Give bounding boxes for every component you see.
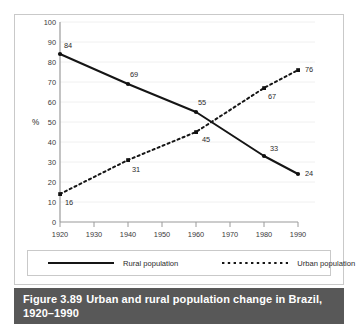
y-tick-50: 50 (48, 118, 56, 127)
x-axis-tick-labels: 1920 1930 1940 1950 1960 1970 1980 1990 (52, 230, 306, 239)
series-point-labels-urban: 16 31 45 67 76 (65, 65, 313, 207)
legend-entry-rural: Rural population (48, 258, 178, 268)
point-label-urban-1990: 76 (305, 65, 313, 74)
x-tick-1990: 1990 (290, 230, 306, 239)
y-tick-80: 80 (48, 58, 56, 67)
figure-caption-number: Figure 3.89 (23, 293, 82, 305)
y-tick-60: 60 (48, 98, 56, 107)
y-axis-tick-labels: 100 90 80 70 60 50 40 30 20 10 0 (44, 18, 56, 227)
x-tick-1960: 1960 (188, 230, 204, 239)
x-tick-1980: 1980 (256, 230, 272, 239)
point-label-urban-1980: 67 (268, 92, 276, 101)
chart-legend: Rural population Urban population (27, 250, 331, 276)
x-tick-1970: 1970 (222, 230, 238, 239)
point-label-rural-1980: 33 (270, 144, 278, 153)
y-tick-20: 20 (48, 178, 56, 187)
chart-panel: 100 90 80 70 60 50 40 30 20 10 0 % (14, 14, 344, 285)
point-label-rural-1920: 84 (64, 41, 72, 50)
y-axis-title: % (32, 118, 39, 127)
legend-label-rural: Rural population (123, 259, 178, 268)
x-tick-1950: 1950 (154, 230, 170, 239)
line-chart: 100 90 80 70 60 50 40 30 20 10 0 % (15, 15, 343, 284)
legend-dashed-line-icon (222, 258, 288, 268)
figure-container: 100 90 80 70 60 50 40 30 20 10 0 % (0, 0, 358, 326)
point-label-rural-1960: 55 (198, 98, 206, 107)
y-tick-100: 100 (44, 18, 56, 27)
y-tick-30: 30 (48, 158, 56, 167)
legend-entry-urban: Urban population (222, 258, 355, 268)
x-axis-tick-marks (60, 222, 298, 227)
point-label-urban-1960: 45 (202, 135, 210, 144)
y-tick-70: 70 (48, 78, 56, 87)
point-label-rural-1990: 24 (305, 169, 313, 178)
figure-caption-text: Figure 3.89Urban and rural population ch… (23, 292, 344, 320)
point-label-urban-1940: 31 (132, 165, 140, 174)
legend-label-urban: Urban population (297, 259, 355, 268)
y-tick-0: 0 (52, 218, 56, 227)
y-tick-40: 40 (48, 138, 56, 147)
x-tick-1930: 1930 (86, 230, 102, 239)
legend-solid-line-icon (48, 258, 114, 268)
y-tick-10: 10 (48, 198, 56, 207)
y-tick-90: 90 (48, 38, 56, 47)
figure-caption-bar: Figure 3.89Urban and rural population ch… (14, 288, 344, 324)
series-markers-rural (58, 52, 300, 176)
x-tick-1920: 1920 (52, 230, 68, 239)
point-label-rural-1940: 69 (130, 70, 138, 79)
x-tick-1940: 1940 (120, 230, 136, 239)
point-label-urban-1920: 16 (65, 198, 73, 207)
